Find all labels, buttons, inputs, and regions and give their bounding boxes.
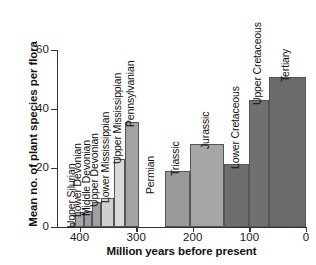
y-axis-tick-label: 60 <box>9 43 49 55</box>
bar <box>190 144 224 227</box>
x-axis-line <box>57 227 306 228</box>
x-axis-tick-label: 200 <box>173 231 213 243</box>
x-axis-tick-label: 0 <box>286 231 316 243</box>
y-axis-tick-label: 40 <box>9 102 49 114</box>
bar <box>224 164 249 227</box>
x-axis-title: Million years before present <box>57 245 306 257</box>
bar-category-label: Lower Mississippian <box>99 111 111 202</box>
bar-chart: Mean no. of plant species per flora 0204… <box>0 0 316 265</box>
bar-category-label: Permian <box>144 156 156 194</box>
bar-category-label: Upper Mississippian <box>111 73 123 164</box>
y-axis-tick-label: 20 <box>9 161 49 173</box>
bar <box>165 171 190 227</box>
y-axis-tick-label: 0 <box>9 220 49 232</box>
bar-category-label: Upper Cretaceous <box>251 22 263 105</box>
x-axis-tick-label: 100 <box>229 231 269 243</box>
bar-category-label: Triassic <box>169 141 181 176</box>
y-axis-title: Mean no. of plant species per flora <box>27 39 39 229</box>
bar <box>114 159 125 227</box>
bar-category-label: Lower Cretaceous <box>229 86 241 169</box>
bar-category-label: Tertiary <box>279 48 291 81</box>
x-axis-tick-label: 300 <box>116 231 156 243</box>
y-axis-line <box>57 50 58 228</box>
x-axis-tick-label: 400 <box>60 231 100 243</box>
y-axis-tick <box>51 109 57 110</box>
bar <box>125 122 139 227</box>
y-axis-tick <box>51 50 57 51</box>
y-axis-tick <box>51 168 57 169</box>
y-axis-tick <box>51 227 57 228</box>
bar <box>269 77 306 227</box>
bar <box>249 100 268 227</box>
bar-category-label: Jurassic <box>199 112 211 149</box>
bar-category-label: Pennsylvanian <box>124 61 136 127</box>
